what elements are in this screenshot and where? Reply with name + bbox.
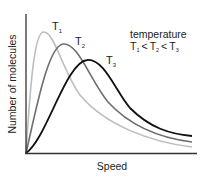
annotation-title: temperature [130, 28, 187, 40]
annotation-inequality: T1<T2<T3 [130, 40, 179, 53]
label-t1: T1 [52, 20, 63, 34]
label-t2: T2 [75, 35, 86, 49]
label-t3: T3 [106, 54, 117, 68]
maxwell-boltzmann-chart: T1 T2 T3 temperature T1<T2<T3 Speed Numb… [0, 0, 202, 178]
y-axis-label: Number of molecules [6, 34, 18, 133]
curve-t3 [26, 60, 192, 153]
x-axis-label: Speed [97, 160, 128, 172]
